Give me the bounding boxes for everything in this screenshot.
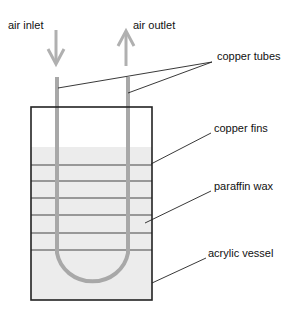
acrylic-vessel-label: acrylic vessel [208, 247, 273, 259]
diagram [0, 0, 294, 316]
air-inlet-arrow-icon [48, 30, 64, 64]
air-outlet-arrow-icon [118, 31, 134, 66]
copper-tubes-label: copper tubes [217, 50, 281, 62]
air-inlet-label: air inlet [8, 19, 43, 31]
paraffin-wax-label: paraffin wax [214, 180, 273, 192]
air-outlet-label: air outlet [133, 19, 175, 31]
copper-fins-label: copper fins [214, 122, 268, 134]
paraffin-wax-fill [31, 147, 152, 300]
